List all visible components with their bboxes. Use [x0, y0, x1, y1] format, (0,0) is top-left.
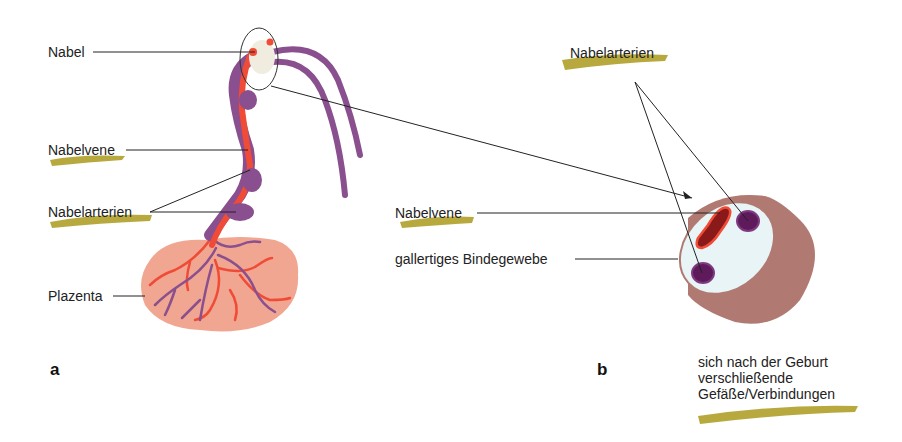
marker-legend [698, 406, 858, 424]
label-nabelvene-a: Nabelvene [48, 142, 115, 158]
legend-note: sich nach der Geburt verschließende Gefä… [698, 354, 835, 402]
cord-cross-section [662, 183, 815, 323]
label-plazenta: Plazenta [48, 288, 102, 304]
label-bindegewebe: gallertiges Bindegewebe [395, 251, 548, 267]
legend-line-2: verschließende [698, 370, 835, 386]
legend-line-3: Gefäße/Verbindungen [698, 386, 835, 402]
panel-label-b: b [597, 360, 607, 380]
arrowhead [683, 191, 692, 199]
label-nabelarterien-b: Nabelarterien [570, 45, 654, 61]
panel-label-a: a [50, 360, 59, 380]
cord-strands [272, 49, 360, 195]
artery-section-lower [692, 263, 714, 283]
label-nabelarterien-a: Nabelarterien [48, 204, 132, 220]
label-nabelvene-b: Nabelvene [395, 205, 462, 221]
label-nabel: Nabel [48, 44, 85, 60]
legend-line-1: sich nach der Geburt [698, 354, 835, 370]
